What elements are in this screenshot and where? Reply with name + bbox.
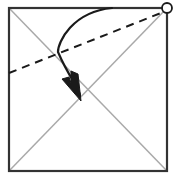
- origami-diagram: Square sheet with both diagonals creased…: [0, 0, 176, 180]
- top-right-corner-marker-icon: [162, 3, 172, 13]
- origami-fold-illustration: [0, 0, 176, 180]
